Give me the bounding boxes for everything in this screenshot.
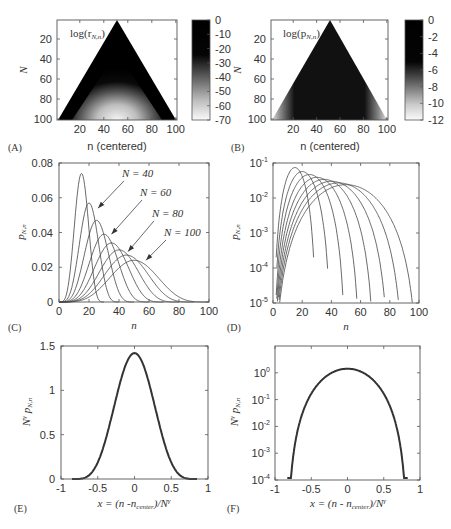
- y-axis-label: N: [231, 66, 243, 75]
- y-tick-label: 0.02: [32, 261, 53, 273]
- x-tick-label: 1: [205, 482, 211, 494]
- x-tick-label: 0.5: [376, 483, 391, 495]
- colorbar-tick-label: -60: [215, 100, 231, 112]
- series-curve: [277, 179, 370, 301]
- panel-label-d: (D): [227, 322, 241, 334]
- x-tick-label: 20: [74, 123, 86, 135]
- series-curve: [277, 177, 357, 298]
- series-curve: [276, 168, 313, 258]
- y-tick-label: 0: [47, 296, 53, 308]
- x-tick-label: 40: [98, 123, 110, 135]
- y-tick-label: 80: [40, 93, 52, 105]
- tick-label: 100: [254, 366, 270, 379]
- tick-label: 10-1: [252, 393, 271, 406]
- colorbar-a: 0-10-20-30-40-50-60-70: [192, 14, 231, 126]
- panel-label-e: (E): [14, 503, 27, 515]
- panel-b: log(pN,n) 2040608010020406080100N 0-2-4-…: [231, 14, 444, 154]
- y-tick-label: 0.08: [32, 157, 53, 169]
- panel-label-a: (A): [8, 142, 22, 154]
- series-curve: [59, 220, 134, 302]
- tick-label: 10-2: [252, 419, 271, 432]
- panel-label-b: (B): [231, 142, 244, 154]
- panel-f: -1-0.500.5110-410-310-210-1100 x = (n - …: [227, 346, 423, 515]
- x-tick-label: 80: [357, 123, 369, 135]
- x-tick-label: 100: [378, 123, 396, 135]
- x-tick-label: 0: [344, 483, 350, 495]
- y-tick-label: 100: [248, 113, 266, 125]
- y-tick-label: 0: [49, 473, 55, 485]
- panel-c: 02040608010000.020.040.060.08 N = 40N = …: [8, 157, 218, 334]
- x-tick-label: 1: [417, 483, 423, 495]
- x-tick-label: 80: [173, 305, 185, 317]
- annotation-label: N = 80: [151, 207, 184, 219]
- y-tick-label: 0.5: [40, 429, 55, 441]
- axis-c-ylabel: pN,n: [14, 224, 28, 241]
- series-curve: [279, 183, 398, 300]
- tick-label: 10-2: [250, 191, 269, 204]
- y-tick-label: 100: [34, 113, 52, 125]
- x-tick-label: 100: [200, 305, 218, 317]
- x-tick-label: 20: [287, 123, 299, 135]
- y-tick-label: 20: [40, 33, 52, 45]
- x-tick-label: 0.5: [164, 482, 179, 494]
- y-tick-label: 0.06: [32, 192, 53, 204]
- line-plot-d: [276, 168, 412, 303]
- line-plot-f: [287, 369, 407, 478]
- x-tick-label: -1: [56, 482, 66, 494]
- x-tick-label: 0: [56, 305, 62, 317]
- colorbar-tick-label: -10: [215, 28, 231, 40]
- series-curve: [59, 173, 104, 302]
- y-tick-label: 60: [254, 73, 266, 85]
- axis-e-ylabel: Nγ pN,n: [20, 397, 34, 427]
- x-tick-label: 20: [83, 305, 95, 317]
- x-tick-label: -0.5: [302, 483, 321, 495]
- tick-label: 10-4: [250, 261, 269, 274]
- colorbar-tick-label: -8: [428, 81, 438, 93]
- colorbar-b: 0-2-4-6-8-10-12: [405, 14, 444, 126]
- x-tick-label: -1: [270, 483, 280, 495]
- x-tick-label: 20: [296, 306, 308, 318]
- colorbar-tick-label: -30: [215, 57, 231, 69]
- y-tick-label: 1: [49, 384, 55, 396]
- x-tick-label: 0: [270, 306, 276, 318]
- colorbar-tick-label: -6: [428, 64, 438, 76]
- x-tick-label: 0: [131, 482, 137, 494]
- panel-label-f: (F): [227, 503, 239, 515]
- y-tick-label: 40: [254, 53, 266, 65]
- colorbar-tick-label: -10: [428, 97, 444, 109]
- tick-label: 10-1: [250, 156, 269, 169]
- y-tick-label: 0.04: [32, 227, 53, 239]
- heatmap-b-xlabel: n (centered): [300, 140, 359, 152]
- axis-f-ylabel: Nγ pN,n: [228, 397, 242, 427]
- x-tick-label: 60: [143, 305, 155, 317]
- colorbar-tick-label: -12: [428, 114, 444, 126]
- y-axis-label: N: [17, 66, 29, 75]
- axes-f: -1-0.500.5110-410-310-210-1100: [252, 346, 424, 495]
- tick-label: 10-3: [252, 446, 271, 459]
- colorbar-tick-label: 0: [428, 14, 434, 26]
- x-tick-label: 60: [354, 306, 366, 318]
- y-tick-label: 1.5: [40, 340, 55, 352]
- x-tick-label: -0.5: [88, 482, 107, 494]
- x-tick-label: 100: [410, 306, 428, 318]
- y-tick-label: 20: [254, 33, 266, 45]
- x-tick-label: 100: [167, 123, 185, 135]
- panel-label-c: (C): [8, 322, 21, 334]
- collapsed-curve: [287, 369, 407, 478]
- colorbar-tick-label: -2: [428, 31, 438, 43]
- annotation-label: N = 40: [121, 167, 154, 179]
- colorbar-tick-label: -4: [428, 47, 438, 59]
- tick-label: 10-3: [250, 226, 269, 239]
- y-tick-label: 80: [254, 93, 266, 105]
- colorbar-tick-label: 0: [215, 14, 221, 26]
- x-tick-label: 80: [146, 123, 158, 135]
- axis-c-xlabel: n: [131, 319, 137, 331]
- figure: log(rN,n) 2040608010020406080100N 0-10-2…: [0, 0, 451, 529]
- axis-d-ylabel: pN,n: [228, 224, 242, 241]
- axis-f-xlabel: x = (n - ncenter)/Nγ: [309, 497, 386, 511]
- tick-label: 10-5: [250, 296, 269, 309]
- annotation-label: N = 60: [139, 186, 172, 198]
- colorbar-tick-label: -40: [215, 71, 231, 83]
- colorbar-tick-label: -20: [215, 43, 231, 55]
- colorbar-tick-label: -50: [215, 85, 231, 97]
